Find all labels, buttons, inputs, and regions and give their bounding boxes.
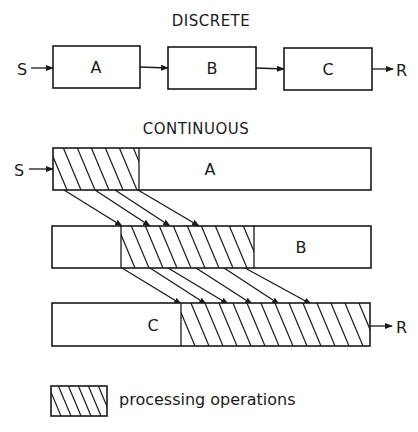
discrete-title: DISCRETE — [172, 12, 251, 30]
discrete-arrow-a-to-b — [140, 67, 168, 68]
discrete-box-b-label: B — [207, 59, 218, 78]
discrete-section: DISCRETE S A B C R — [17, 12, 407, 90]
continuous-bar-c-label: C — [147, 316, 158, 335]
discrete-result-label: R — [396, 61, 407, 80]
transfer-arrows-b-to-c — [122, 268, 311, 304]
legend: processing operations — [38, 386, 295, 416]
transfer-arrows-a-to-b — [64, 190, 199, 226]
continuous-bar-b-label: B — [296, 238, 307, 257]
continuous-result-label: R — [396, 318, 407, 337]
continuous-bar-b: B — [52, 226, 371, 268]
continuous-title: CONTINUOUS — [143, 120, 250, 138]
transfer-arrow — [138, 190, 199, 226]
transfer-arrow — [64, 190, 122, 226]
legend-label: processing operations — [119, 390, 295, 409]
legend-hatch-swatch — [38, 386, 111, 416]
transfer-arrow — [122, 268, 181, 304]
discrete-source-label: S — [17, 60, 27, 79]
discrete-arrow-b-to-c — [256, 68, 284, 69]
discrete-box-c: C — [284, 48, 372, 90]
diagram-canvas: DISCRETE S A B C R CONTINUOUS S A — [0, 0, 418, 432]
transfer-arrow — [196, 268, 252, 304]
continuous-bar-c: C — [52, 303, 377, 346]
continuous-bar-a: A — [35, 148, 371, 190]
discrete-box-b: B — [168, 47, 256, 89]
continuous-section: CONTINUOUS S A B C R — [14, 120, 407, 346]
discrete-box-c-label: C — [322, 60, 333, 79]
discrete-box-a: A — [53, 46, 140, 88]
transfer-arrow — [224, 268, 279, 304]
continuous-source-label: S — [14, 161, 24, 180]
discrete-box-a-label: A — [91, 58, 102, 77]
transfer-arrow — [245, 268, 311, 304]
continuous-bar-a-label: A — [205, 160, 216, 179]
